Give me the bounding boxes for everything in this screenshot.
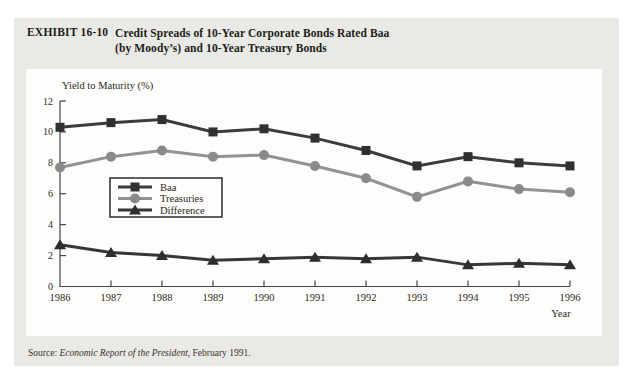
x-tick-label: 1989 [203, 292, 224, 303]
legend-circle-marker [130, 194, 140, 204]
series-difference [54, 239, 576, 269]
source-work-title: Economic Report of the President [59, 348, 187, 358]
square-marker [566, 161, 575, 170]
circle-marker [361, 173, 371, 183]
x-tick-label: 1995 [509, 292, 530, 303]
circle-marker [310, 161, 320, 171]
circle-marker [565, 187, 575, 197]
square-marker [311, 134, 320, 143]
x-tick-label: 1993 [407, 292, 428, 303]
circle-marker [208, 152, 218, 162]
square-marker [56, 123, 65, 132]
y-tick-label: 2 [48, 250, 53, 261]
y-tick-label: 8 [48, 157, 53, 168]
y-tick-label: 12 [43, 96, 53, 107]
legend-square-marker [131, 183, 140, 192]
y-axis-title: Yield to Maturity (%) [62, 80, 154, 92]
x-tick-label: 1986 [50, 292, 71, 303]
square-marker [413, 161, 422, 170]
circle-marker [463, 176, 473, 186]
square-marker [260, 124, 269, 133]
x-tick-label: 1994 [458, 292, 480, 303]
y-tick-label: 0 [48, 281, 53, 292]
exhibit-title: Credit Spreads of 10-Year Corporate Bond… [115, 26, 389, 55]
y-tick-label: 10 [43, 126, 53, 137]
square-marker [209, 127, 218, 136]
credit-spreads-chart: Yield to Maturity (%)0246810121986198719… [26, 69, 602, 336]
legend-label: Treasuries [160, 193, 203, 204]
square-marker [362, 146, 371, 155]
circle-marker [514, 184, 524, 194]
legend-label: Difference [160, 205, 205, 216]
circle-marker [55, 162, 65, 172]
circle-marker [412, 192, 422, 202]
source-prefix: Source: [28, 348, 59, 358]
exhibit-title-line2: (by Moody’s) and 10-Year Treasury Bonds [115, 41, 389, 56]
exhibit-title-line1: Credit Spreads of 10-Year Corporate Bond… [115, 26, 389, 41]
square-marker [515, 158, 524, 167]
square-marker [107, 118, 116, 127]
x-tick-label: 1987 [101, 292, 122, 303]
x-axis-title: Year [551, 308, 571, 319]
x-tick-label: 1992 [356, 292, 377, 303]
square-marker [158, 115, 167, 124]
circle-marker [259, 150, 269, 160]
legend-label: Baa [160, 182, 177, 193]
exhibit-number-label: EXHIBIT 16-10 [27, 26, 115, 55]
x-tick-label: 1991 [305, 292, 326, 303]
x-tick-label: 1990 [254, 292, 275, 303]
y-tick-label: 6 [48, 188, 53, 199]
chart-panel: Yield to Maturity (%)0246810121986198719… [26, 69, 602, 336]
circle-marker [157, 145, 167, 155]
series-line [60, 120, 570, 166]
source-suffix: , February 1991. [188, 348, 251, 358]
x-tick-label: 1988 [152, 292, 173, 303]
source-note: Source: Economic Report of the President… [28, 348, 251, 358]
circle-marker [106, 152, 116, 162]
legend: BaaTreasuriesDifference [110, 178, 222, 217]
exhibit-header: EXHIBIT 16-10 Credit Spreads of 10-Year … [27, 26, 389, 55]
square-marker [464, 152, 473, 161]
x-tick-label: 1996 [560, 292, 581, 303]
exhibit-block: EXHIBIT 16-10 Credit Spreads of 10-Year … [14, 18, 619, 366]
y-tick-label: 4 [48, 219, 53, 230]
